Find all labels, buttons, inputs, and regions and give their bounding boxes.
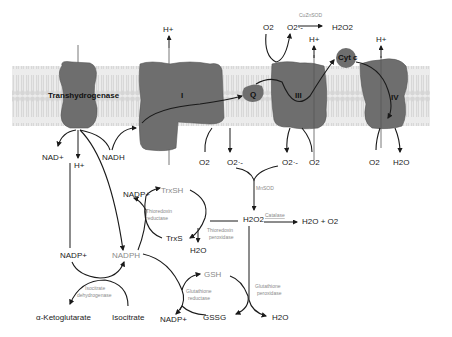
- gssg-label: GSSG: [203, 313, 226, 322]
- thioredoxin-peroxidase-label: Thioredoxin: [207, 227, 233, 233]
- h-plus-transhydrogenase: H+: [74, 161, 85, 170]
- nadp-plus-bottom-label: NADP+: [160, 315, 187, 324]
- isocitrate-dh-label: Isocitrate: [85, 285, 106, 291]
- h2o2-label: H2O2: [243, 215, 264, 224]
- complex-iv: IV: [360, 56, 408, 148]
- nadh-label: NADH: [102, 153, 125, 162]
- o2-complex1-label: O2: [199, 158, 210, 167]
- h2o-thioredoxin-label: H2O: [190, 246, 206, 255]
- catalase-products-label: H2O + O2: [302, 217, 339, 226]
- cuznsod-label: CuZnSOD: [299, 12, 322, 18]
- trxsh-label: TrxSH: [161, 186, 184, 195]
- h2o-complex4-label: H2O: [393, 158, 409, 167]
- cytc-label: Cyt c: [338, 53, 358, 62]
- alpha-ketoglutarate-label: α-Ketoglutarate: [36, 313, 91, 322]
- thioredoxin-reductase-label: Thioredoxin: [146, 208, 172, 214]
- complex-iii: III: [271, 55, 326, 160]
- glutathione-peroxidase-label-2: peroxidase: [257, 290, 282, 296]
- h-plus-complex1: H+: [163, 25, 174, 34]
- transhydrogenase-label: Transhydrogenase: [48, 91, 120, 100]
- trxs-label: TrxS: [166, 234, 183, 243]
- mitochondrial-ros-diagram: Transhydrogenase I H+ Q III H+ Cyt c IV …: [0, 0, 452, 337]
- o2-complex3-label: O2: [309, 158, 320, 167]
- o2-radical-complex1-label: O2·-: [227, 158, 243, 167]
- glutathione-peroxidase-label: Glutathione: [255, 283, 281, 289]
- h-plus-complex4: H+: [376, 35, 387, 44]
- nadph-label: NADPH: [112, 251, 140, 260]
- complex-iv-label: IV: [391, 93, 399, 102]
- gsh-label: GSH: [204, 270, 222, 279]
- o2-radical-top-label: O2·-: [287, 23, 303, 32]
- isocitrate-dh-label-2: dehydrogenase: [77, 292, 112, 298]
- nad-plus-label: NAD+: [42, 153, 64, 162]
- o2-complex4-label: O2: [369, 158, 380, 167]
- thioredoxin-reductase-label-2: reductase: [146, 215, 168, 221]
- h-plus-complex3: H+: [309, 35, 320, 44]
- o2-radical-complex3-label: O2·-: [282, 158, 298, 167]
- q-label: Q: [250, 90, 256, 99]
- glutathione-reductase-label: Glutathione: [186, 288, 212, 294]
- isocitrate-label: Isocitrate: [112, 313, 145, 322]
- nadp-plus-left-label: NADP+: [60, 251, 87, 260]
- h2o-glutathione-label: H2O: [272, 313, 288, 322]
- complex-iii-label: III: [295, 91, 302, 100]
- catalase-label: Catalase: [265, 212, 285, 218]
- thioredoxin-peroxidase-label-2: peroxidase: [209, 234, 234, 240]
- cytochrome-c: Cyt c: [336, 48, 358, 68]
- complex-i-label: I: [181, 91, 183, 100]
- o2-top-label: O2: [263, 23, 274, 32]
- glutathione-reductase-label-2: reductase: [188, 295, 210, 301]
- mnsod-label: MnSOD: [256, 185, 274, 191]
- h2o2-top-label: H2O2: [332, 23, 353, 32]
